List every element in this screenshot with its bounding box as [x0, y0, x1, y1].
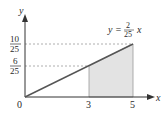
x-axis-arrow-icon: [147, 94, 155, 100]
y-tick-10-den: 25: [10, 44, 20, 54]
y-tick-6-num: 6: [13, 56, 18, 66]
x-tick-3: 3: [86, 99, 91, 110]
x-axis-label: x: [155, 92, 161, 103]
x-tick-0: 0: [17, 99, 22, 110]
equation-numerator: 2: [126, 21, 130, 30]
diagram: y x 0 3 5 10 25 6 25 y = 2 25 x: [0, 0, 165, 115]
x-tick-5: 5: [130, 99, 135, 110]
equation-var: x: [136, 24, 142, 35]
shaded-region: [89, 44, 133, 97]
y-axis-label: y: [18, 5, 24, 16]
y-tick-6-den: 25: [10, 66, 20, 76]
y-tick-10-num: 10: [10, 34, 20, 44]
equation-denominator: 25: [124, 30, 132, 39]
equation-lhs: y =: [107, 24, 122, 35]
